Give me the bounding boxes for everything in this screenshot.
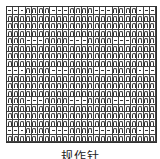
knit-stitch-icon [150,15,156,23]
knit-stitch-icon [150,30,156,38]
knit-stitch-icon [150,135,156,143]
purl-stitch-icon [150,7,156,15]
knit-stitch-icon [150,75,156,83]
knit-stitch-icon [150,45,156,53]
purl-stitch-icon [150,127,156,135]
knit-stitch-icon [150,52,156,60]
knit-stitch-icon [150,97,156,105]
purl-stitch-icon [150,67,156,75]
knit-stitch-icon [150,90,156,98]
knit-stitch-icon [150,82,156,90]
knit-stitch-icon [150,22,156,30]
knit-stitch-icon [150,60,156,68]
knit-stitch-icon [150,105,156,113]
chart-caption: 规作针 [0,150,160,159]
knit-stitch-icon [150,120,156,128]
knitting-chart-grid [6,6,157,143]
knit-stitch-icon [150,37,156,45]
knit-stitch-icon [150,112,156,120]
